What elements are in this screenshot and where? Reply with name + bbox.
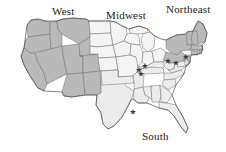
state-michigan-lower: [141, 32, 155, 52]
region-label-west: West: [52, 6, 75, 17]
state-alabama: [151, 85, 161, 102]
marker-star-6: [130, 109, 136, 115]
us-census-region-map: West Midwest Northeast South: [0, 0, 226, 152]
state-north-dakota: [89, 21, 111, 34]
state-kansas: [98, 57, 118, 71]
state-massachusetts: [190, 45, 203, 50]
state-south-dakota: [90, 33, 113, 47]
region-south: [96, 60, 188, 133]
state-michigan-upper: [129, 26, 148, 34]
state-arizona: [62, 73, 85, 97]
region-label-south: South: [142, 131, 169, 142]
state-missouri: [116, 55, 138, 77]
map-canvas: [0, 0, 226, 152]
region-label-midwest: Midwest: [106, 10, 146, 21]
region-label-northeast: Northeast: [166, 4, 211, 15]
state-colorado: [80, 54, 100, 73]
state-arkansas: [133, 72, 144, 89]
state-delaware: [185, 60, 188, 65]
region-west: [21, 18, 101, 97]
state-florida: [159, 102, 188, 133]
region-northeast: [164, 21, 207, 66]
state-new-mexico: [83, 71, 101, 95]
state-maryland: [176, 61, 186, 67]
